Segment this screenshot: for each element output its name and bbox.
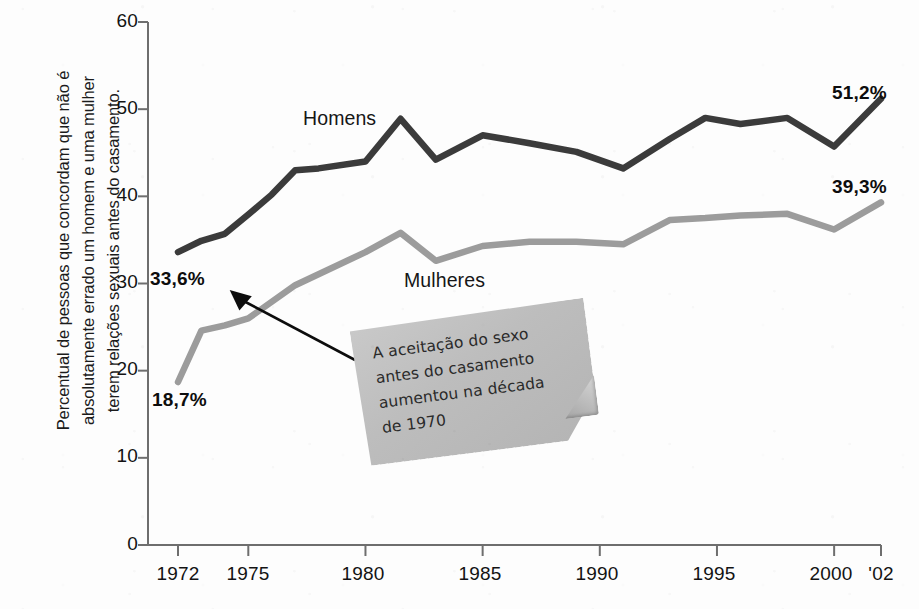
value-label-homens-start: 33,6% [150, 268, 205, 290]
x-tick-marks [178, 545, 881, 556]
series-label-homens: Homens [303, 107, 376, 130]
series-label-mulheres: Mulheres [404, 269, 485, 292]
y-tick-marks [138, 22, 148, 545]
callout-note: A aceitação do sexo antes do casamento a… [349, 298, 601, 466]
plot-area [0, 0, 919, 609]
value-label-mulheres-start: 18,7% [152, 389, 207, 411]
arrow-to-33-6-icon [225, 290, 355, 360]
value-label-homens-end: 51,2% [832, 82, 887, 104]
chart-canvas: Percentual de pessoas que concordam que … [0, 0, 919, 609]
series-line-homens [178, 99, 881, 252]
value-label-mulheres-end: 39,3% [832, 176, 887, 198]
